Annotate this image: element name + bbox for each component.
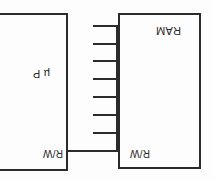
ram-block-label: RAM bbox=[156, 25, 181, 37]
bus-stub bbox=[93, 96, 118, 98]
microprocessor-rw-pin-label: R/W bbox=[43, 148, 63, 159]
ram-rw-pin-label: R/W bbox=[130, 148, 150, 159]
bus-stub bbox=[93, 132, 118, 134]
bus-stub bbox=[93, 25, 118, 27]
bus-stub bbox=[93, 114, 118, 116]
microprocessor-block-label: µ P bbox=[33, 68, 50, 80]
rw-connection-wire bbox=[67, 150, 118, 152]
diagram-canvas: RAM R/W µ P R/W bbox=[0, 0, 213, 179]
bus-stub bbox=[93, 43, 118, 45]
bus-stub bbox=[93, 78, 118, 80]
scanned-diagram-page: RAM R/W µ P R/W bbox=[0, 0, 213, 179]
bus-stub bbox=[93, 60, 118, 62]
